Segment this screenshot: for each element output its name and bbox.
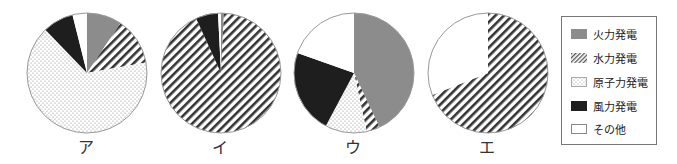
legend-item-wind: 風力発電 <box>571 98 637 114</box>
dots-swatch-icon <box>571 77 587 87</box>
legend-item-hydro: 水力発電 <box>571 50 637 66</box>
legend-item-thermal: 火力発電 <box>571 26 637 42</box>
pie-label-a: ア <box>66 134 106 158</box>
gray-swatch-icon <box>571 29 587 39</box>
legend-label: 原子力発電 <box>593 74 648 90</box>
legend-label: 水力発電 <box>593 50 637 66</box>
white-swatch-icon <box>571 124 587 134</box>
pie-label-e: エ <box>467 134 507 158</box>
legend-item-other: その他 <box>571 121 626 137</box>
pie-label-u: ウ <box>333 134 373 158</box>
legend-item-nuclear: 原子力発電 <box>571 74 648 90</box>
black-swatch-icon <box>571 101 587 111</box>
pie-label-i: イ <box>200 134 240 158</box>
legend-label: 火力発電 <box>593 26 637 42</box>
legend-label: その他 <box>593 121 626 137</box>
legend-label: 風力発電 <box>593 98 637 114</box>
hatch-swatch-icon <box>571 53 587 63</box>
legend: 火力発電 水力発電 原子力発電 風力発電 その他 <box>561 16 657 145</box>
